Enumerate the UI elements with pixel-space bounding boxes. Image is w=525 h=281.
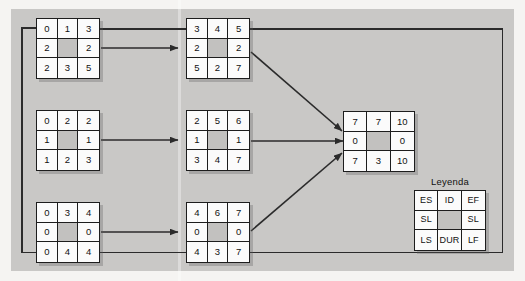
node-cell-id [58, 131, 79, 151]
node-cell: 0 [391, 132, 414, 152]
node-cell: 0 [78, 223, 99, 243]
node-cell-id [208, 39, 229, 59]
legend-cell-es: ES [415, 191, 438, 211]
legend-cell-lf: LF [462, 230, 485, 250]
node-top-left[interactable]: 0 1 3 2 2 2 3 5 [36, 18, 100, 79]
node-cell: 3 [78, 19, 99, 39]
node-cell: 2 [58, 111, 79, 131]
node-cell: 7 [344, 151, 367, 171]
legend: Leyenda ES ID EF SL SL LS DUR LF [414, 176, 486, 251]
node-cell: 2 [187, 39, 208, 59]
diagram-canvas: 0 1 3 2 2 2 3 5 3 4 5 2 2 5 2 7 0 2 2 1 … [0, 0, 525, 281]
node-cell: 6 [208, 203, 229, 223]
node-cell: 0 [37, 242, 58, 262]
node-cell: 0 [37, 19, 58, 39]
node-cell: 2 [58, 150, 79, 170]
node-cell: 1 [187, 131, 208, 151]
node-cell: 1 [78, 131, 99, 151]
node-cell: 7 [367, 112, 390, 132]
node-cell-id [208, 223, 229, 243]
legend-cell-dur: DUR [438, 230, 461, 250]
node-bottom-center[interactable]: 4 6 7 0 0 4 3 7 [186, 202, 250, 263]
node-cell-id [208, 131, 229, 151]
node-cell: 3 [208, 242, 229, 262]
node-cell-id [58, 223, 79, 243]
node-cell: 3 [367, 151, 390, 171]
legend-cell-center [438, 211, 461, 231]
legend-cell-ef: EF [462, 191, 485, 211]
node-cell: 5 [228, 19, 249, 39]
node-cell: 0 [37, 111, 58, 131]
node-cell: 10 [391, 112, 414, 132]
node-top-center[interactable]: 3 4 5 2 2 5 2 7 [186, 18, 250, 79]
node-cell: 4 [187, 242, 208, 262]
node-cell: 10 [391, 151, 414, 171]
node-cell: 7 [228, 150, 249, 170]
node-cell: 7 [228, 58, 249, 78]
node-cell: 1 [228, 131, 249, 151]
node-cell: 0 [187, 223, 208, 243]
node-cell-id [367, 132, 390, 152]
node-cell: 2 [37, 39, 58, 59]
arrow-topcenter-to-right [251, 52, 342, 131]
node-cell: 4 [58, 242, 79, 262]
node-cell: 3 [58, 203, 79, 223]
node-cell: 5 [208, 111, 229, 131]
node-cell: 4 [78, 203, 99, 223]
node-cell: 0 [37, 223, 58, 243]
node-cell: 2 [187, 111, 208, 131]
legend-node: ES ID EF SL SL LS DUR LF [414, 190, 486, 251]
node-cell: 2 [37, 58, 58, 78]
node-middle-left[interactable]: 0 2 2 1 1 1 2 3 [36, 110, 100, 171]
node-cell: 4 [208, 150, 229, 170]
node-cell: 0 [37, 203, 58, 223]
node-cell: 1 [37, 131, 58, 151]
node-cell: 4 [78, 242, 99, 262]
node-cell: 2 [228, 39, 249, 59]
node-cell: 2 [208, 58, 229, 78]
node-cell: 3 [187, 150, 208, 170]
node-cell: 0 [344, 132, 367, 152]
node-cell: 1 [37, 150, 58, 170]
node-cell: 4 [208, 19, 229, 39]
legend-title: Leyenda [414, 176, 486, 187]
node-cell-id [58, 39, 79, 59]
legend-cell-id: ID [438, 191, 461, 211]
node-cell: 3 [187, 19, 208, 39]
node-cell: 5 [187, 58, 208, 78]
legend-cell-sl-right: SL [462, 211, 485, 231]
node-cell: 6 [228, 111, 249, 131]
node-cell: 7 [344, 112, 367, 132]
node-cell: 7 [228, 203, 249, 223]
node-cell: 2 [78, 39, 99, 59]
node-cell: 3 [78, 150, 99, 170]
node-cell: 4 [187, 203, 208, 223]
arrow-bottomcenter-to-right [251, 153, 342, 231]
node-bottom-left[interactable]: 0 3 4 0 0 0 4 4 [36, 202, 100, 263]
legend-cell-ls: LS [415, 230, 438, 250]
node-right-end[interactable]: 7 7 10 0 0 7 3 10 [343, 111, 415, 172]
node-cell: 3 [58, 58, 79, 78]
node-cell: 7 [228, 242, 249, 262]
node-cell: 5 [78, 58, 99, 78]
node-cell: 1 [58, 19, 79, 39]
node-middle-center[interactable]: 2 5 6 1 1 3 4 7 [186, 110, 250, 171]
node-cell: 0 [228, 223, 249, 243]
node-cell: 2 [78, 111, 99, 131]
legend-cell-sl-left: SL [415, 211, 438, 231]
